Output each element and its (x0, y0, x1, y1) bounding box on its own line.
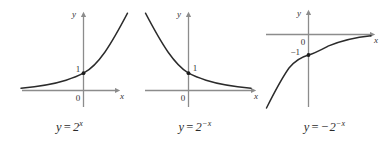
plot-area-panel-3: y x 0 −1 (258, 0, 383, 118)
panel-2-caption: y=2−x (130, 120, 260, 135)
y-intercept-dot-panel-3 (307, 53, 311, 57)
curve-2-to-the-x (21, 13, 128, 88)
y-intercept-dot-panel-1 (82, 71, 86, 75)
caption-2-exponent: −x (202, 119, 211, 128)
y-axis-label-panel-2: y (176, 9, 181, 19)
caption-1-equals: = (62, 120, 73, 134)
plot-area-panel-2: y x 0 1 (130, 0, 260, 118)
curve-minus-2-to-the-minus-x (267, 36, 372, 108)
y-intercept-label-panel-2: 1 (193, 63, 198, 73)
y-intercept-dot-panel-2 (187, 71, 191, 75)
origin-label-panel-2: 0 (181, 93, 186, 103)
y-intercept-label-panel-1: 1 (76, 64, 81, 74)
x-axis-label-panel-3: x (373, 35, 378, 45)
exponential-functions-figure: y x 0 1 y=2x y x 0 1 y (0, 0, 383, 152)
panel-y-equals-2-to-the-minus-x: y x 0 1 y=2−x (130, 0, 260, 152)
panel-3-caption: y=−2−x (262, 120, 383, 135)
caption-2-equals: = (184, 120, 195, 134)
caption-1-exponent: x (79, 119, 83, 128)
caption-1-lhs: y (56, 120, 62, 134)
caption-3-equals: = (310, 120, 321, 134)
curve-2-to-the-minus-x (146, 13, 252, 88)
plot-area-panel-1: y x 0 1 (0, 0, 135, 118)
y-axis-label-panel-1: y (71, 9, 76, 19)
caption-3-exponent: −x (336, 119, 345, 128)
origin-label-panel-1: 0 (76, 93, 81, 103)
caption-3-lhs: y (304, 120, 310, 134)
panel-1-caption: y=2x (2, 120, 137, 135)
x-axis-label-panel-1: x (119, 91, 124, 101)
origin-label-panel-3: 0 (301, 37, 306, 47)
panel-y-equals-2-to-the-x: y x 0 1 y=2x (0, 0, 135, 152)
y-intercept-label-panel-3: −1 (290, 47, 300, 57)
y-axis-label-panel-3: y (296, 8, 301, 18)
panel-y-equals-minus-2-to-the-minus-x: y x 0 −1 y=−2−x (258, 0, 383, 152)
